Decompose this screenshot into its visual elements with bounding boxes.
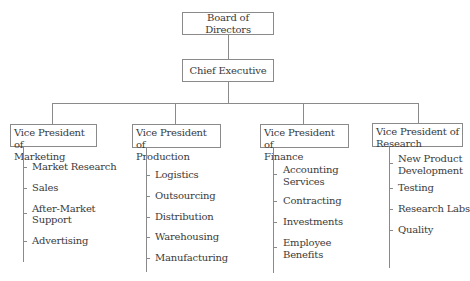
research-item: Development bbox=[398, 165, 463, 177]
tick bbox=[146, 237, 150, 238]
research-item: Quality bbox=[398, 224, 433, 236]
finance-item: Services bbox=[283, 176, 324, 188]
finance-item: Accounting bbox=[283, 164, 338, 176]
research-spine bbox=[389, 147, 390, 268]
marketing-item: Support bbox=[32, 214, 72, 226]
finance-item: Investments bbox=[283, 216, 343, 228]
board-ceo-connector bbox=[228, 35, 229, 59]
vp-research-line1: Vice President of bbox=[376, 126, 459, 138]
marketing-spine bbox=[23, 147, 24, 262]
tick bbox=[146, 196, 150, 197]
vp-finance-line1: Vice President of bbox=[264, 127, 345, 151]
tick bbox=[146, 217, 150, 218]
finance-item: Benefits bbox=[283, 249, 323, 261]
tick bbox=[273, 222, 277, 223]
vp-marketing-line1: Vice President of bbox=[14, 127, 93, 151]
research-item: New Product bbox=[398, 153, 462, 165]
chief-executive-box: Chief Executive bbox=[182, 59, 274, 82]
vp-research-box: Vice President of Research bbox=[372, 123, 463, 147]
ceo-down-connector bbox=[228, 82, 229, 103]
production-item: Outsourcing bbox=[155, 190, 215, 202]
vp-production-line1: Vice President of bbox=[136, 127, 217, 151]
vp-finance-line2: Finance bbox=[264, 151, 345, 163]
ceo-label: Chief Executive bbox=[190, 65, 267, 77]
research-drop bbox=[418, 103, 419, 123]
vp-marketing-box: Vice President of Marketing bbox=[10, 124, 97, 147]
tick bbox=[389, 188, 393, 189]
tick bbox=[23, 188, 27, 189]
tick bbox=[146, 258, 150, 259]
finance-drop bbox=[303, 103, 304, 124]
tick bbox=[23, 241, 27, 242]
vp-production-line2: Production bbox=[136, 151, 217, 163]
marketing-item: Advertising bbox=[32, 235, 88, 247]
finance-item: Contracting bbox=[283, 195, 341, 207]
tick bbox=[273, 247, 277, 248]
finance-item: Employee bbox=[283, 237, 331, 249]
production-item: Manufacturing bbox=[155, 252, 228, 264]
tick bbox=[273, 174, 277, 175]
tick bbox=[389, 230, 393, 231]
production-item: Logistics bbox=[155, 169, 199, 181]
vp-production-box: Vice President of Production bbox=[132, 124, 221, 148]
board-label: Board of Directors bbox=[183, 12, 273, 36]
vp-horizontal-connector bbox=[52, 103, 419, 104]
tick bbox=[23, 167, 27, 168]
tick bbox=[23, 213, 27, 214]
tick bbox=[389, 209, 393, 210]
tick bbox=[273, 201, 277, 202]
production-item: Warehousing bbox=[155, 231, 219, 243]
finance-spine bbox=[273, 148, 274, 273]
marketing-drop bbox=[52, 103, 53, 124]
tick bbox=[146, 175, 150, 176]
production-drop bbox=[175, 103, 176, 124]
board-of-directors-box: Board of Directors bbox=[182, 12, 274, 35]
production-spine bbox=[146, 148, 147, 272]
research-item: Research Labs bbox=[398, 203, 470, 215]
tick bbox=[389, 163, 393, 164]
research-item: Testing bbox=[398, 182, 434, 194]
marketing-item: Market Research bbox=[32, 161, 116, 173]
vp-finance-box: Vice President of Finance bbox=[260, 124, 349, 148]
production-item: Distribution bbox=[155, 211, 213, 223]
marketing-item: Sales bbox=[32, 182, 58, 194]
